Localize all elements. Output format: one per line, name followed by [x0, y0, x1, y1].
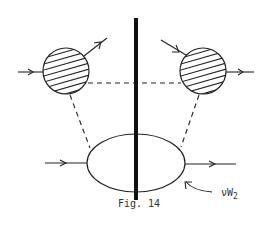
label-main: νW	[221, 187, 233, 198]
label-subscript: 2	[233, 192, 238, 201]
structure-function-label: νW2	[221, 187, 238, 201]
outgoing-left-blob-line	[84, 38, 107, 56]
dashed-line-left	[70, 95, 90, 148]
figure-stage: νW2 Fig. 14	[0, 0, 273, 228]
right-hatched-blob	[167, 36, 237, 110]
arrow-icon	[185, 182, 192, 189]
incoming-right-blob-line	[161, 40, 186, 55]
dashed-line-right	[181, 95, 199, 147]
label-pointer-arrow	[186, 182, 212, 192]
figure-caption: Fig. 14	[118, 198, 160, 209]
left-hatched-blob	[30, 36, 100, 110]
